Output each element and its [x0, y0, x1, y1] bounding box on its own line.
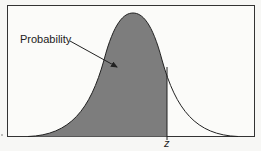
normal-curve-figure: [0, 0, 261, 151]
probability-label: Probability: [20, 33, 71, 45]
stray-dot: [1, 134, 2, 135]
z-label: z: [164, 137, 170, 149]
